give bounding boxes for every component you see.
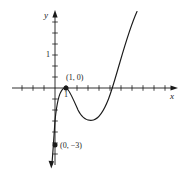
- annotation-y-intercept: (0, −3): [60, 142, 82, 150]
- y-axis-tick-label-1: 1: [46, 51, 50, 59]
- y-axis-label: y: [44, 11, 48, 20]
- point-marker-y-intercept: [53, 143, 58, 148]
- coordinate-plane: [0, 0, 185, 171]
- annotation-local-max: (1, 0): [66, 74, 83, 82]
- y-axis-arrow-icon: [52, 10, 57, 18]
- x-axis-label: x: [170, 92, 174, 101]
- cubic-graph-figure: y x 1 1 (1, 0) (0, −3): [0, 0, 185, 171]
- x-axis-tick-label-1: 1: [64, 91, 68, 99]
- curve-down-arrow-icon: [49, 161, 54, 169]
- x-axis-arrow-icon: [171, 85, 179, 90]
